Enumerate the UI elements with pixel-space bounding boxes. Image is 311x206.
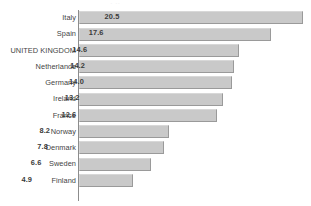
plot-area: Italy20.5Spain17.6UNITED KINGDOM14.6Neth…: [0, 8, 311, 204]
bar: [79, 11, 303, 24]
bar-row: Finland4.9: [0, 173, 311, 189]
bar-row: Norway8.2: [0, 124, 311, 140]
category-label: UNITED KINGDOM: [10, 43, 76, 60]
bar-row: Germany14.0: [0, 75, 311, 91]
category-label: Spain: [57, 26, 76, 43]
bar-value-label: 8.2: [0, 124, 90, 137]
bar: [79, 125, 169, 138]
bar: [79, 141, 164, 154]
cut-off-title-sliver: · ··: [110, 0, 180, 4]
bar: [79, 158, 151, 171]
bar: [79, 44, 239, 57]
bar: [79, 76, 232, 89]
bar: [79, 28, 271, 41]
bar-row: Sweden6.6: [0, 156, 311, 172]
bar-row: Spain17.6: [0, 26, 311, 42]
bar: [79, 60, 234, 73]
bar-chart: · ·· Italy20.5Spain17.6UNITED KINGDOM14.…: [0, 0, 311, 206]
bar: [79, 109, 217, 122]
bar-value-label: 4.9: [0, 173, 54, 186]
category-label: Ireland: [53, 91, 76, 108]
bar-row: Denmark7.8: [0, 140, 311, 156]
category-label: Norway: [51, 124, 76, 141]
bar-row: UNITED KINGDOM14.6: [0, 43, 311, 59]
category-label: France: [53, 108, 76, 125]
bar-row: Ireland13.2: [0, 91, 311, 107]
bar-row: France12.6: [0, 108, 311, 124]
bar: [79, 174, 133, 187]
bar-row: Italy20.5: [0, 10, 311, 26]
category-label: Italy: [62, 10, 76, 27]
category-label: Netherlands: [36, 59, 76, 76]
bar-rows: Italy20.5Spain17.6UNITED KINGDOM14.6Neth…: [0, 10, 311, 189]
category-label: Denmark: [46, 140, 76, 157]
category-label: Germany: [45, 75, 76, 92]
bar: [79, 93, 223, 106]
category-label: Sweden: [49, 156, 76, 173]
bar-row: Netherlands14.2: [0, 59, 311, 75]
category-label: Finland: [51, 173, 76, 190]
